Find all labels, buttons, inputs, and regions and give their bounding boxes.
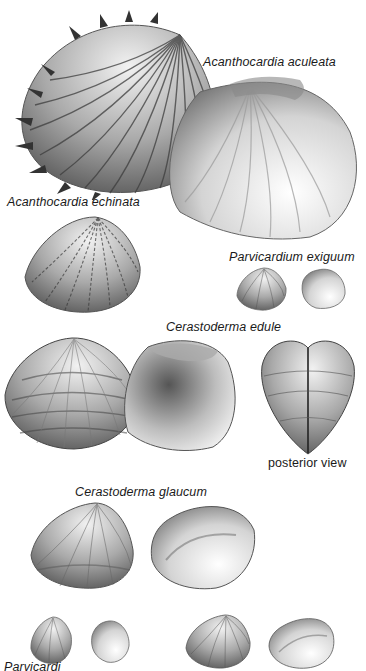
shell-glaucum-outer (25, 500, 137, 592)
shell-echinata (20, 212, 145, 317)
species-label-partial: Parvicardi (4, 660, 61, 671)
shell-edule-inner (118, 337, 240, 455)
shell-edule-posterior (258, 336, 358, 456)
species-label-glaucum: Cerastoderma glaucum (75, 485, 207, 499)
shell-glaucum-inner (146, 500, 258, 592)
shell-aculeata-inner (160, 72, 365, 242)
shell-exiguum-outer (234, 266, 289, 312)
species-label-edule: Cerastoderma edule (166, 320, 281, 334)
species-label-exiguum: Parvicardium exiguum (229, 250, 355, 264)
shell-bottom-2-inner (265, 614, 337, 670)
shell-exiguum-inner (298, 266, 348, 311)
species-label-aculeata: Acanthocardia aculeata (203, 55, 336, 69)
species-label-echinata: Acanthocardia echinata (7, 195, 140, 209)
shell-bottom-1-inner (87, 618, 132, 666)
posterior-view-caption: posterior view (268, 456, 347, 470)
shell-bottom-2-outer (183, 612, 253, 670)
